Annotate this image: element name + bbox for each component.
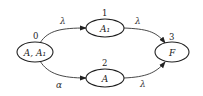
edge-label-1-3: λ bbox=[134, 16, 141, 26]
edge-label-0-1: λ bbox=[59, 16, 66, 26]
edge-0-1: λ bbox=[40, 16, 86, 43]
node-0: 0 A, A₁ bbox=[17, 31, 53, 62]
node-number-1: 1 bbox=[102, 8, 107, 18]
node-label-2: A bbox=[101, 74, 109, 84]
node-label-3: F bbox=[168, 48, 176, 58]
node-1: 1 A₁ bbox=[86, 8, 124, 37]
node-label-0: A, A₁ bbox=[23, 48, 46, 58]
node-number-0: 0 bbox=[33, 31, 38, 41]
node-label-1: A₁ bbox=[99, 24, 110, 34]
node-number-2: 2 bbox=[102, 58, 107, 68]
state-diagram: λ α λ λ 0 A, A₁ 1 A₁ 2 A 3 F bbox=[0, 0, 203, 96]
edge-1-3: λ bbox=[124, 16, 165, 43]
node-3: 3 F bbox=[155, 32, 189, 62]
node-2: 2 A bbox=[86, 58, 124, 87]
edge-label-2-3: λ bbox=[139, 79, 146, 89]
node-number-3: 3 bbox=[169, 32, 174, 42]
edge-2-3: λ bbox=[124, 62, 165, 89]
edge-0-2: α bbox=[40, 61, 86, 90]
edge-label-0-2: α bbox=[56, 80, 62, 90]
